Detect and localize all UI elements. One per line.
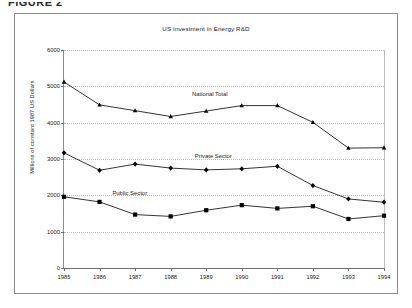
x-tick-label: 1987 <box>129 274 142 280</box>
y-axis-title: Millions of constant 1987 US Dollars <box>29 62 35 192</box>
y-tick-label: 2000 <box>47 192 60 198</box>
data-point-marker <box>97 168 102 173</box>
x-tick-mark <box>277 268 278 271</box>
x-tick-label: 1993 <box>342 274 355 280</box>
x-tick-label: 1990 <box>235 274 248 280</box>
x-tick-mark <box>135 268 136 271</box>
x-tick-label: 1986 <box>93 274 106 280</box>
x-tick-mark <box>64 268 65 271</box>
data-point-marker <box>204 208 208 212</box>
plot-area: 0100020003000400050006000 19851986198719… <box>63 50 384 268</box>
chart-title: US Investment in Energy R&D <box>15 25 397 32</box>
y-tick-label: 0 <box>57 265 60 271</box>
data-point-marker <box>168 165 173 170</box>
data-point-marker <box>97 102 101 106</box>
data-point-marker <box>346 196 351 201</box>
x-tick-mark <box>384 268 385 271</box>
y-tick-label: 3000 <box>47 156 60 162</box>
x-tick-label: 1985 <box>58 274 71 280</box>
x-tick-label: 1994 <box>378 274 391 280</box>
data-point-marker <box>311 183 316 188</box>
data-point-marker <box>382 200 387 205</box>
y-tick-label: 6000 <box>47 47 60 53</box>
x-tick-mark <box>242 268 243 271</box>
x-tick-mark <box>313 268 314 271</box>
y-tick-label: 1000 <box>47 229 60 235</box>
x-tick-label: 1988 <box>164 274 177 280</box>
data-point-marker <box>133 212 137 216</box>
y-tick-label: 4000 <box>47 120 60 126</box>
data-point-marker <box>204 167 209 172</box>
data-point-marker <box>382 214 386 218</box>
series-label: National Total <box>192 91 228 97</box>
plot-right-border <box>384 50 385 268</box>
series-label: Private Sector <box>195 153 232 159</box>
x-tick-mark <box>171 268 172 271</box>
figure-caption: FIGURE 2 <box>8 0 63 8</box>
data-point-marker <box>240 203 244 207</box>
data-point-marker <box>62 150 67 155</box>
data-point-marker <box>346 217 350 221</box>
series-label: Public Sector <box>112 190 147 196</box>
x-tick-mark <box>348 268 349 271</box>
chart-frame: US Investment in Energy R&D Millions of … <box>14 13 398 294</box>
data-point-marker <box>97 200 101 204</box>
data-point-marker <box>275 164 280 169</box>
data-point-marker <box>133 161 138 166</box>
x-tick-label: 1991 <box>271 274 284 280</box>
data-point-marker <box>62 80 66 84</box>
data-point-marker <box>311 204 315 208</box>
x-tick-mark <box>206 268 207 271</box>
x-tick-label: 1989 <box>200 274 213 280</box>
x-tick-label: 1992 <box>306 274 319 280</box>
y-tick-label: 5000 <box>47 83 60 89</box>
data-point-marker <box>239 166 244 171</box>
series-line <box>64 197 384 219</box>
x-axis-line <box>64 268 384 269</box>
x-tick-mark <box>100 268 101 271</box>
data-point-marker <box>62 195 66 199</box>
data-point-marker <box>169 214 173 218</box>
data-point-marker <box>275 206 279 210</box>
